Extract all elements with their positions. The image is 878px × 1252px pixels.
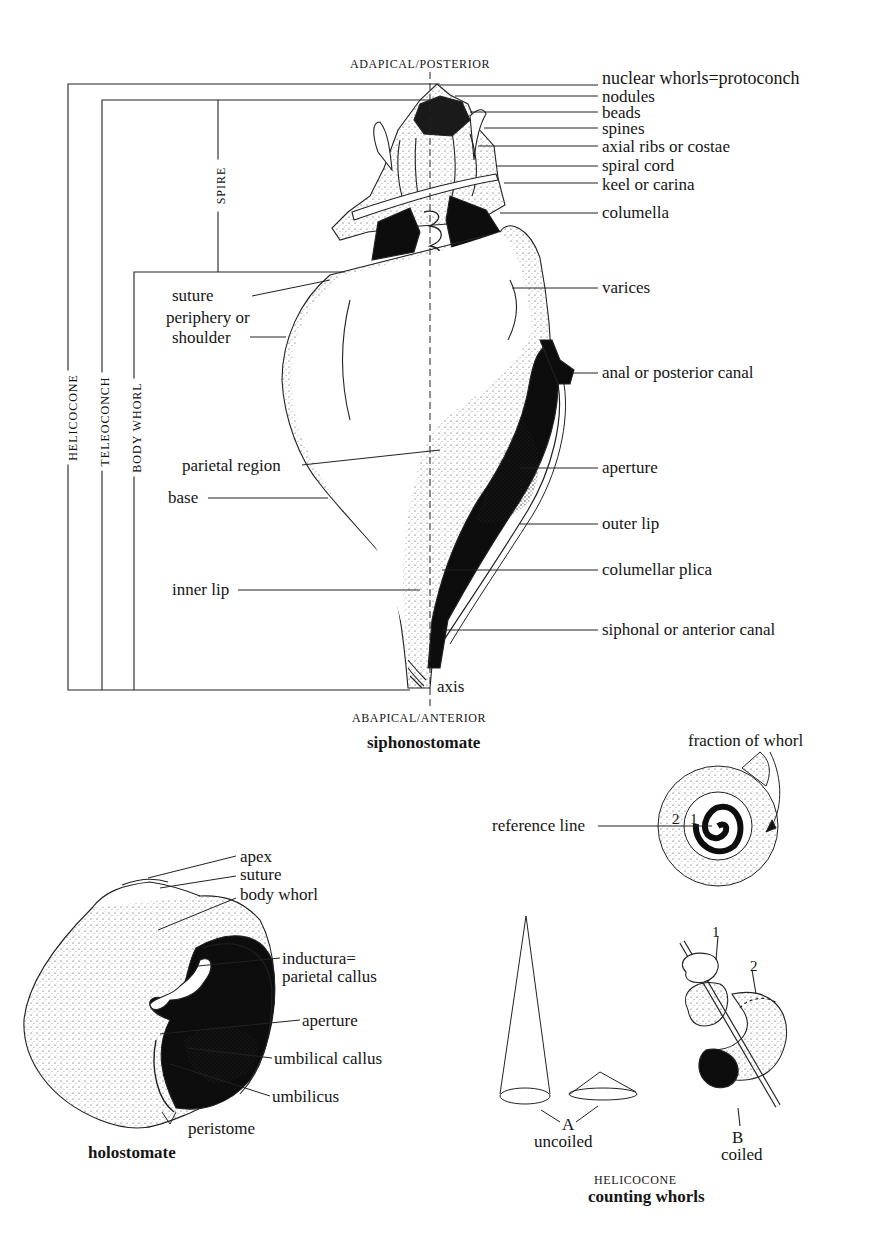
label-siphonal-canal: siphonal or anterior canal [602,621,775,638]
whorl-spiral [598,752,780,886]
label-suture: suture [172,287,214,304]
siphonostomate-shell [282,84,574,688]
holostomate-shell [24,879,275,1128]
label-reference-line: reference line [492,817,585,834]
label-axis: axis [437,678,464,695]
label-spines: spines [602,120,645,137]
holo-label-apex: apex [240,848,272,865]
coiled-helicocone [682,936,787,1126]
label-protoconch: nuclear whorls=protoconch [602,70,800,87]
bracket-label-teleoconch: TELEOCONCH [98,373,113,471]
label-columellar-plica: columellar plica [602,561,712,578]
label-inner-lip: inner lip [172,581,229,598]
coil-number-1: 1 [712,924,720,941]
holo-label-umbilicus: umbilicus [272,1088,339,1105]
label-parietal-region: parietal region [182,457,281,474]
spiral-number-1: 1 [690,811,698,828]
holo-label-body-whorl: body whorl [240,886,318,903]
spiral-number-2: 2 [672,811,680,828]
bracket-label-body-whorl: BODY WHORL [130,379,145,477]
holo-label-parietal-callus: parietal callus [282,968,377,985]
caption-holostomate: holostomate [88,1144,176,1161]
abapical-anterior-label: ABAPICAL/ANTERIOR [352,710,486,727]
label-periphery: periphery or [166,309,250,326]
label-anal-canal: anal or posterior canal [602,364,754,381]
label-columella: columella [602,204,669,221]
holo-label-suture: suture [240,866,282,883]
label-uncoiled: uncoiled [534,1133,593,1150]
label-b: B [732,1129,743,1146]
label-fraction-of-whorl: fraction of whorl [688,732,803,749]
label-varices: varices [602,279,650,296]
label-axial-ribs: axial ribs or costae [602,138,730,155]
bracket-label-spire: SPIRE [214,160,229,212]
label-base: base [168,489,198,506]
label-aperture: aperture [602,459,658,476]
coil-number-2: 2 [750,958,758,975]
label-shoulder: shoulder [172,329,231,346]
label-spiral-cord: spiral cord [602,157,674,174]
caption-siphonostomate: siphonostomate [367,734,480,751]
caption-counting-whorls: counting whorls [588,1188,705,1205]
uncoiled-cones [500,916,637,1122]
bracket-label-helicocone: HELICOCONE [66,371,81,465]
label-a: A [562,1116,574,1133]
adapical-posterior-label: ADAPICAL/POSTERIOR [350,56,490,73]
holo-label-umbilical-callus: umbilical callus [274,1050,382,1067]
holo-label-peristome: peristome [188,1120,255,1137]
label-outer-lip: outer lip [602,515,659,532]
holo-label-inductura: inductura= [282,950,356,967]
holo-label-aperture: aperture [302,1012,358,1029]
label-coiled: coiled [721,1146,763,1163]
label-keel: keel or carina [602,176,695,193]
